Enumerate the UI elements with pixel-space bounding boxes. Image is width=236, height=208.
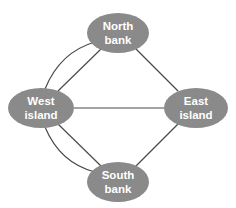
node-label-line1: West	[27, 95, 54, 107]
bridges-graph-diagram: North bank West island East island South…	[0, 0, 236, 208]
node-label-line1: South	[102, 169, 135, 181]
node-shape	[8, 88, 74, 128]
node-shape	[87, 13, 149, 53]
node-shape	[87, 162, 149, 202]
node-west-island: West island	[8, 88, 74, 128]
edge-west-south-straight	[58, 124, 101, 166]
node-label-line2: island	[179, 109, 212, 121]
edge-north-east	[136, 49, 178, 91]
edge-west-south-curved	[45, 127, 95, 172]
node-label-line2: island	[24, 109, 57, 121]
node-label-line2: bank	[105, 34, 132, 46]
node-south-bank: South bank	[87, 162, 149, 202]
edge-west-north-straight	[58, 49, 101, 91]
edge-south-east	[136, 124, 178, 166]
node-label-line2: bank	[105, 183, 132, 195]
node-label-line1: North	[103, 20, 134, 32]
node-north-bank: North bank	[87, 13, 149, 53]
node-shape	[164, 88, 228, 128]
edge-west-north-curved	[45, 42, 95, 89]
node-east-island: East island	[164, 88, 228, 128]
node-label-line1: East	[184, 95, 208, 107]
